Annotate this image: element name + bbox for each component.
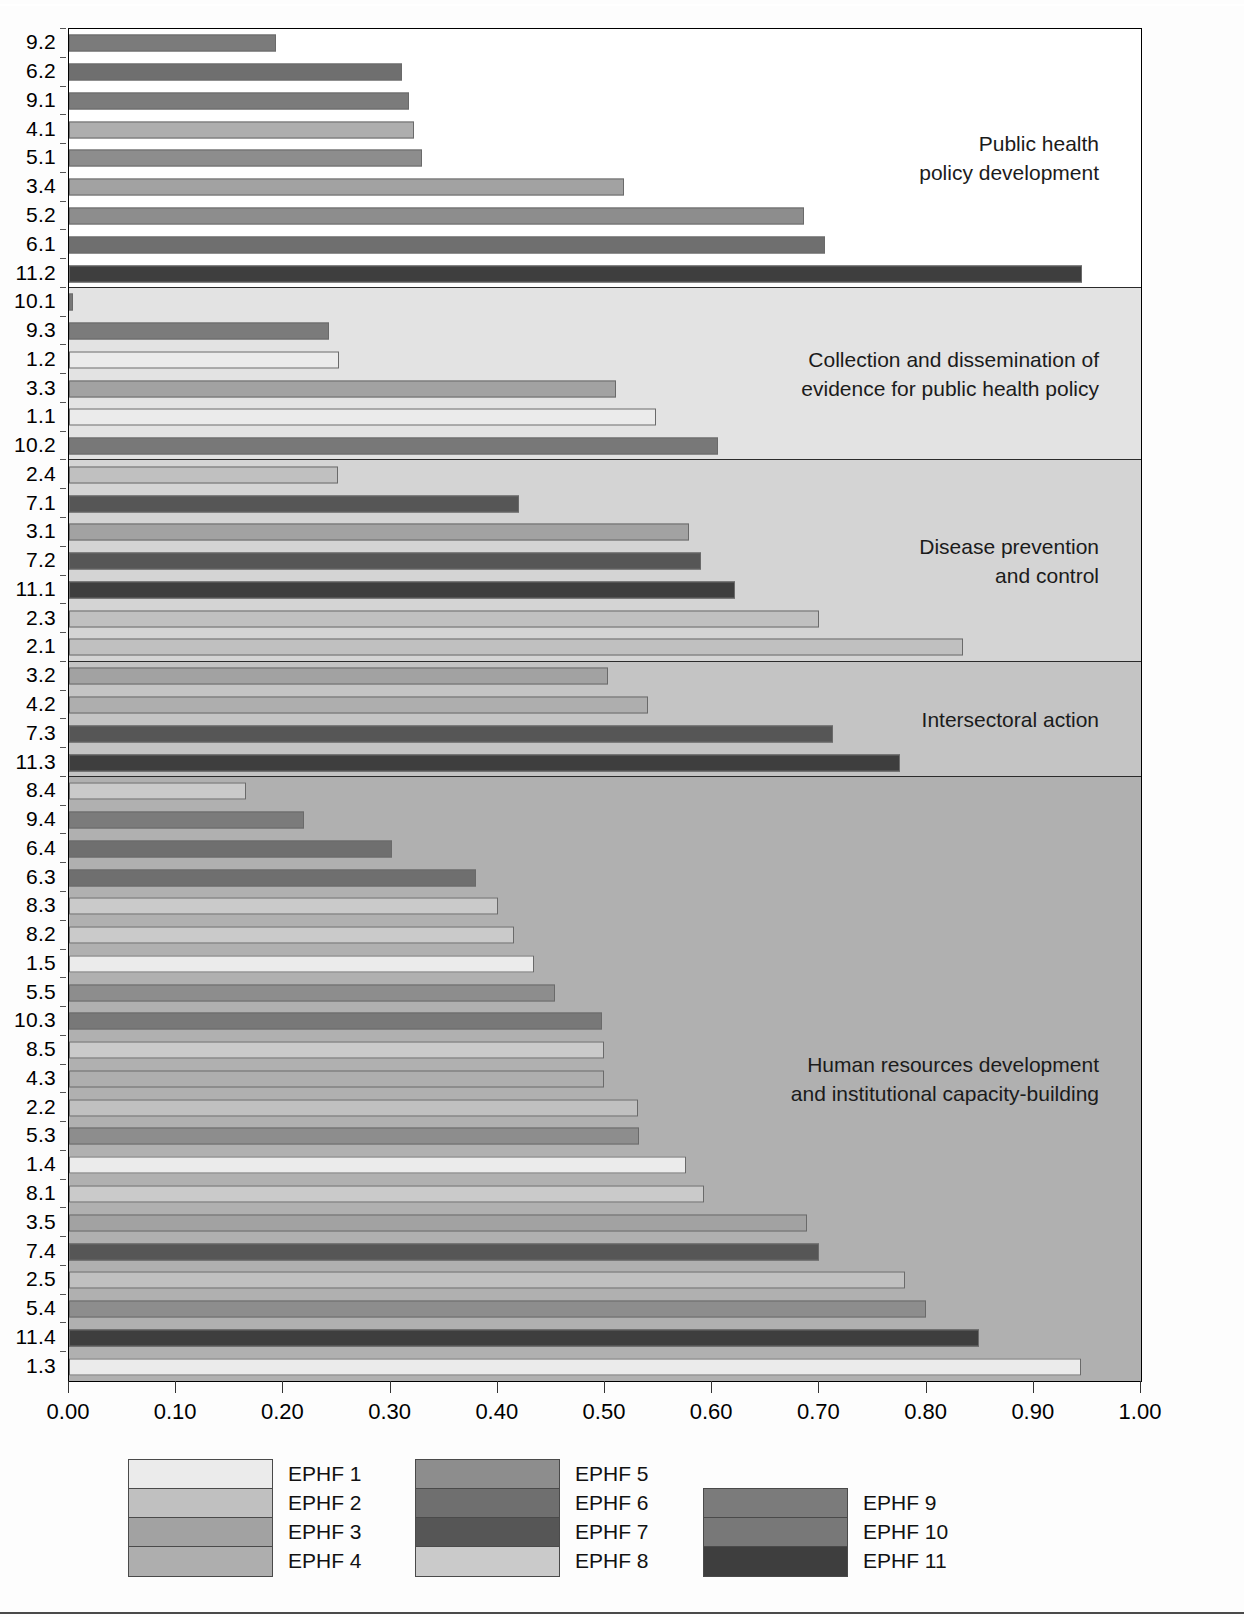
legend-label-stack: EPHF 1EPHF 2EPHF 3EPHF 4 [288, 1459, 362, 1575]
chart-row [69, 288, 1141, 317]
bar [69, 1128, 639, 1145]
bar [69, 121, 414, 138]
y-tick-label: 10.3 [14, 1008, 56, 1032]
bar [69, 1070, 604, 1087]
chart-row [69, 1007, 1141, 1036]
chart-row [69, 144, 1141, 173]
chart-row [69, 202, 1141, 231]
bar [69, 380, 616, 397]
y-tick-label: 11.3 [15, 750, 56, 774]
legend-item-label: EPHF 2 [288, 1488, 362, 1517]
bar [69, 898, 498, 915]
y-tick-mark [60, 258, 66, 259]
chart-row [69, 1208, 1141, 1237]
x-tick-mark [1140, 1381, 1141, 1393]
bar [69, 783, 246, 800]
y-tick-label: 4.3 [26, 1066, 56, 1090]
x-tick-label: 0.90 [1011, 1399, 1054, 1425]
bar [69, 466, 338, 483]
y-tick-label: 4.1 [26, 117, 56, 141]
y-tick-label: 11.2 [15, 261, 56, 285]
y-tick-mark [60, 459, 66, 460]
y-tick-label: 2.1 [26, 634, 56, 658]
bar [69, 92, 409, 109]
bar [69, 1099, 638, 1116]
legend-swatch [129, 1460, 272, 1489]
y-tick-label: 9.4 [26, 807, 56, 831]
x-tick-mark [497, 1381, 498, 1393]
y-tick-label: 9.1 [26, 88, 56, 112]
y-tick-mark [60, 776, 66, 777]
bar [69, 1243, 819, 1260]
bar [69, 725, 833, 742]
chart-row [69, 432, 1141, 461]
chart-row [69, 29, 1141, 58]
legend-swatch-stack [415, 1459, 560, 1577]
y-tick-label: 10.1 [14, 289, 56, 313]
legend-swatch [704, 1489, 847, 1518]
legend-item-label: EPHF 6 [575, 1488, 649, 1517]
bar [69, 1214, 807, 1231]
legend-item-label: EPHF 4 [288, 1546, 362, 1575]
chart-row [69, 633, 1141, 662]
chart-row [69, 403, 1141, 432]
x-tick-mark [68, 1381, 69, 1393]
y-tick-mark [60, 86, 66, 87]
y-tick-mark [60, 632, 66, 633]
legend-item-label: EPHF 11 [863, 1546, 948, 1575]
y-tick-label: 5.3 [26, 1123, 56, 1147]
y-tick-mark [60, 1092, 66, 1093]
legend-item-label: EPHF 1 [288, 1459, 362, 1488]
y-tick-label: 1.4 [26, 1152, 56, 1176]
legend-item-label: EPHF 10 [863, 1517, 948, 1546]
y-tick-label: 8.5 [26, 1037, 56, 1061]
chart-row [69, 345, 1141, 374]
chart-row [69, 834, 1141, 863]
chart-row [69, 1093, 1141, 1122]
x-tick-mark [711, 1381, 712, 1393]
chart-row [69, 978, 1141, 1007]
x-tick-label: 0.70 [797, 1399, 840, 1425]
legend-item-label: EPHF 3 [288, 1517, 362, 1546]
bar [69, 696, 648, 713]
bar [69, 35, 276, 52]
chart-row [69, 576, 1141, 605]
chart-row [69, 115, 1141, 144]
y-tick-mark [60, 862, 66, 863]
y-tick-label: 5.2 [26, 203, 56, 227]
chart-row [69, 58, 1141, 87]
chart-row [69, 489, 1141, 518]
y-tick-mark [60, 316, 66, 317]
y-tick-mark [60, 229, 66, 230]
y-tick-label: 8.4 [26, 778, 56, 802]
chart-row [69, 547, 1141, 576]
bar [69, 812, 304, 829]
x-tick-label: 0.10 [154, 1399, 197, 1425]
chart-row [69, 1122, 1141, 1151]
y-tick-label: 6.1 [26, 232, 56, 256]
y-tick-mark [60, 805, 66, 806]
y-tick-mark [60, 1006, 66, 1007]
legend-swatch [416, 1460, 559, 1489]
chart-row [69, 460, 1141, 489]
chart-row [69, 87, 1141, 116]
y-tick-mark [60, 1150, 66, 1151]
y-tick-mark [60, 431, 66, 432]
bar [69, 1013, 602, 1030]
y-tick-label: 6.2 [26, 59, 56, 83]
y-tick-label: 1.3 [26, 1354, 56, 1378]
legend-swatch [129, 1518, 272, 1547]
legend-swatch [129, 1547, 272, 1576]
bar [69, 553, 701, 570]
chart-group-band: Collection and dissemination of evidence… [69, 288, 1141, 461]
y-tick-label: 8.1 [26, 1181, 56, 1205]
bar [69, 984, 555, 1001]
y-tick-label: 6.4 [26, 836, 56, 860]
y-tick-label: 8.3 [26, 893, 56, 917]
y-tick-label: 7.1 [26, 491, 56, 515]
y-tick-mark [60, 833, 66, 834]
chart-row [69, 1352, 1141, 1381]
chart-group-band: Human resources development and institut… [69, 777, 1141, 1381]
y-tick-label: 10.2 [14, 433, 56, 457]
y-tick-mark [60, 114, 66, 115]
